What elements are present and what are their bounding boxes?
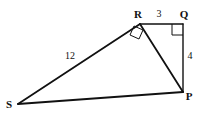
vertex-label-Q: Q <box>180 8 189 20</box>
segment-RP <box>140 24 183 92</box>
segment-SR <box>18 24 140 104</box>
vertex-label-P: P <box>186 90 193 102</box>
segment-SP <box>18 92 183 104</box>
length-label-QP: 4 <box>188 50 193 61</box>
right-angle-r-icon <box>130 26 143 39</box>
geometry-figure: R Q P S 3 4 12 <box>0 0 206 117</box>
vertex-label-S: S <box>6 98 12 110</box>
right-angle-q-icon <box>172 24 183 35</box>
vertex-label-R: R <box>134 8 143 20</box>
figure-canvas: R Q P S 3 4 12 <box>0 0 206 117</box>
length-label-SR: 12 <box>65 50 75 61</box>
length-label-RQ: 3 <box>157 8 162 19</box>
